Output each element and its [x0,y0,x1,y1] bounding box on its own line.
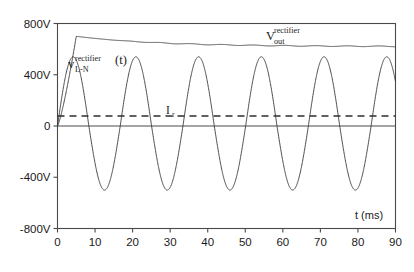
x-axis-tick-labels: 0102030405060708090 [54,236,402,248]
x-axis-tick-label: 20 [126,236,139,248]
y-axis-tick-label: -400V [20,171,51,183]
x-axis-tick-label: 70 [314,236,327,248]
x-axis-tick-label: 10 [89,236,102,248]
annotation-v-rectifier-out-subscript: out [274,37,285,46]
y-axis-tick-label: 0 [44,120,50,132]
x-axis-tick-label: 0 [54,236,60,248]
line-series-v-rectifier-out [58,36,396,126]
annotation-ir-subscript: r [172,110,175,119]
x-axis-title: t (ms) [355,209,383,221]
annotation-v-rectifier-ln-superscript: rectifier [75,54,101,63]
y-axis-tick-labels: 800V400V0-400V-800V [20,18,51,235]
annotation-v-rectifier-out-superscript: rectifier [274,26,300,35]
annotation-v-rectifier-ln-suffix: (t) [115,53,127,67]
line-series-v-rectifier-ln [58,57,396,190]
x-axis-ticks [58,229,396,233]
x-axis-tick-label: 40 [201,236,214,248]
x-axis-tick-label: 60 [276,236,289,248]
figure-root: 800V400V0-400V-800V 0102030405060708090 … [0,0,414,272]
annotation-v-rectifier-ln-base: v [68,57,75,71]
x-axis-tick-label: 50 [239,236,252,248]
y-axis-tick-label: -800V [20,223,51,235]
x-axis-tick-label: 90 [389,236,402,248]
x-axis-tick-label: 30 [164,236,177,248]
annotation-v-rectifier-ln: v rectifier L-N (t) [68,53,127,74]
rectifier-waveform-chart: 800V400V0-400V-800V 0102030405060708090 … [0,0,414,272]
y-axis-tick-label: 400V [24,69,51,81]
y-axis-ticks [54,24,58,229]
annotation-v-rectifier-out: V rectifier out [266,26,300,46]
annotation-ir-base: I [166,104,170,116]
annotation-v-rectifier-ln-subscript: L-N [75,65,89,74]
x-axis-tick-label: 80 [352,236,365,248]
y-axis-tick-label: 800V [24,18,51,30]
